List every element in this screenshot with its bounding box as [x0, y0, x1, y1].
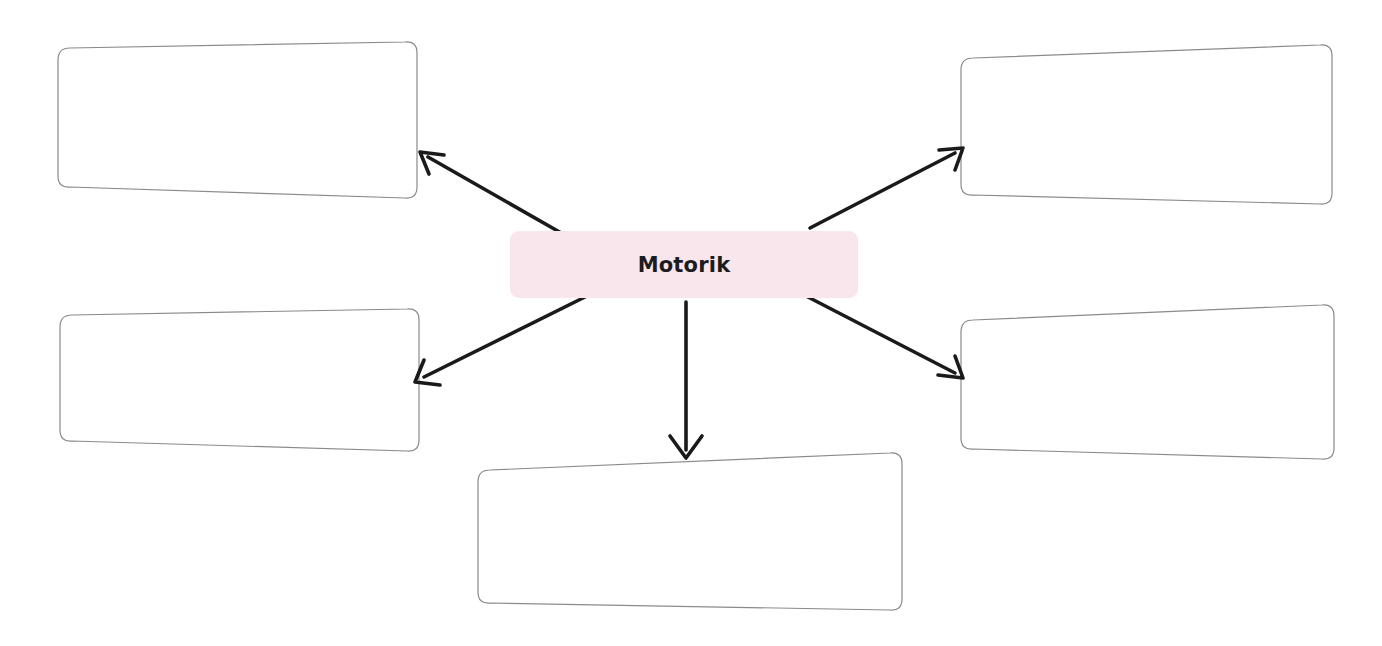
center-node-label: Motorik	[638, 253, 731, 277]
arrow-to-top-right	[810, 148, 963, 228]
arrow-to-bottom-right	[806, 296, 963, 378]
arrow-to-bottom-left	[415, 291, 597, 385]
answer-box-top-right[interactable]	[961, 45, 1332, 204]
answer-box-bottom-center[interactable]	[478, 453, 902, 610]
answer-box-bottom-left[interactable]	[60, 309, 419, 451]
answer-box-top-left[interactable]	[58, 42, 417, 198]
concept-map-canvas: Motorik	[0, 0, 1382, 646]
arrow-to-top-left	[420, 152, 563, 234]
diagram-svg	[0, 0, 1382, 646]
answer-box-bottom-right[interactable]	[961, 305, 1334, 459]
arrow-to-bottom-center	[670, 302, 702, 458]
center-node[interactable]: Motorik	[510, 231, 858, 298]
